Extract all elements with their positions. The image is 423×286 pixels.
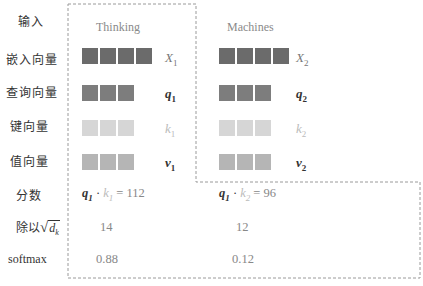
attention-diagram: 输入 嵌入向量 查询向量 键向量 值向量 分数 除以√dk softmax Th…	[0, 0, 423, 286]
symbol-v1: v1	[165, 155, 175, 173]
row-label-value: 值向量	[10, 152, 49, 169]
softmax-2: 0.12	[232, 252, 254, 267]
scaled-score-1: 14	[100, 220, 113, 235]
key-vector-2	[219, 120, 271, 136]
column-header-thinking: Thinking	[96, 20, 140, 35]
row-label-divide: 除以√dk	[16, 218, 60, 237]
sqrt-radicand: dk	[48, 220, 60, 235]
row-label-input: 输入	[18, 12, 44, 29]
symbol-k2: k2	[296, 121, 306, 139]
sqrt-icon: √	[40, 219, 48, 235]
dashed-outline	[0, 0, 423, 286]
row-label-softmax: softmax	[8, 252, 47, 267]
symbol-q1: q1	[165, 86, 176, 104]
row-label-embedding: 嵌入向量	[6, 50, 58, 67]
score-1: q1 · k1 = 112	[82, 186, 145, 203]
symbol-k1: k1	[165, 121, 175, 139]
value-vector-2	[219, 154, 271, 170]
embedding-vector-2	[219, 48, 289, 64]
divide-label: 除以	[16, 221, 40, 235]
symbol-x1: X1	[165, 50, 177, 68]
column-header-machines: Machines	[227, 20, 274, 35]
query-vector-1	[82, 85, 134, 101]
value-vector-1	[82, 154, 134, 170]
symbol-x2: X2	[296, 50, 308, 68]
symbol-q2: q2	[296, 86, 307, 104]
row-label-key: 键向量	[10, 117, 49, 134]
row-label-query: 查询向量	[6, 83, 58, 100]
symbol-v2: v2	[296, 155, 306, 173]
embedding-vector-1	[82, 48, 152, 64]
score-2: q1 · k2 = 96	[219, 186, 276, 203]
scaled-score-2: 12	[236, 220, 249, 235]
query-vector-2	[219, 85, 271, 101]
key-vector-1	[82, 120, 134, 136]
row-label-score: 分数	[16, 186, 42, 203]
softmax-1: 0.88	[96, 252, 118, 267]
